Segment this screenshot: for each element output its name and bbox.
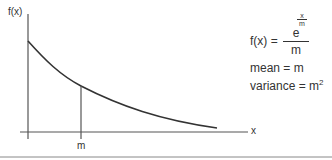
variance-prefix: variance = m (250, 79, 319, 93)
variance-text: variance = m2 (250, 78, 323, 93)
x-axis-label: x (251, 125, 256, 136)
pdf-base: e (293, 26, 300, 40)
exp-den: m (299, 20, 305, 27)
pdf-fraction: e x m m (283, 26, 309, 57)
pdf-denominator: m (283, 43, 309, 57)
y-axis-label: f(x) (8, 6, 22, 17)
tick-label-m: m (77, 140, 85, 151)
variance-sup: 2 (319, 78, 323, 87)
pdf-lhs: f(x) = (250, 34, 278, 48)
fraction-bar (283, 41, 309, 42)
density-curve (28, 41, 217, 128)
mean-text: mean = m (250, 61, 304, 75)
pdf-numerator: e x m (283, 26, 309, 40)
exp-num: x (300, 12, 304, 19)
pdf-exponent: x m (297, 12, 307, 27)
pdf-formula: f(x) = e x m m (250, 34, 278, 48)
